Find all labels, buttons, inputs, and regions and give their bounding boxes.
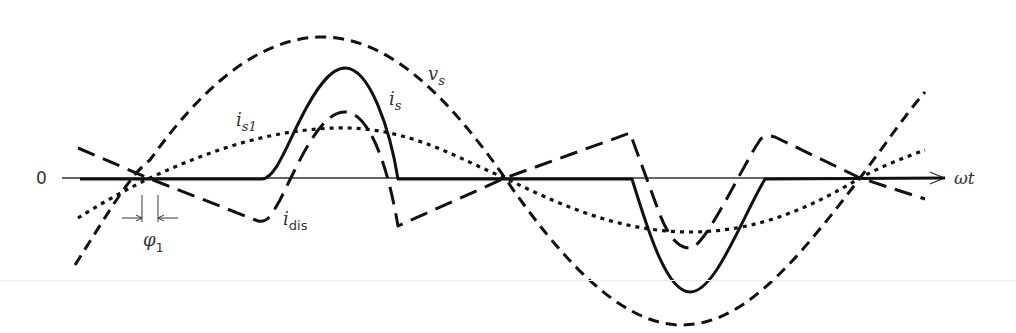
idis-label: idis <box>283 208 308 233</box>
x-axis-label: ωt <box>954 168 975 188</box>
waveform-figure: 0 ωt vs is is1 idis φ1 <box>0 0 1016 333</box>
vs-label: vs <box>428 63 445 88</box>
origin-label: 0 <box>36 168 47 188</box>
is-label: is <box>389 88 402 113</box>
is1-label: is1 <box>236 109 257 134</box>
scan-artifact-line <box>0 280 1016 281</box>
waveform-svg: 0 ωt vs is is1 idis φ1 <box>0 0 1016 333</box>
is-curve <box>80 68 945 292</box>
phi1-label: φ1 <box>143 229 164 255</box>
phi1-annotation <box>122 195 178 222</box>
